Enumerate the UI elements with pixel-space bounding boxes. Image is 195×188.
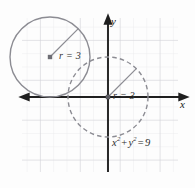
- dashed-circle-radius-label: r = 3: [113, 91, 135, 101]
- coordinate-plane-figure: y x r = 3 r = 3 x2+y2=9: [0, 0, 195, 188]
- solid-circle-radius-label: r = 3: [59, 51, 81, 61]
- circle-equation-label: x2+y2=9: [112, 136, 150, 148]
- dashed-circle-center-dot: [106, 95, 110, 99]
- equation-value: 9: [145, 137, 150, 148]
- grid-layer: [22, 18, 178, 172]
- x-axis-label: x: [180, 99, 185, 110]
- equation-equals: =: [137, 137, 145, 148]
- solid-circle-center-dot: [48, 55, 52, 59]
- y-axis-label: y: [111, 16, 116, 27]
- figure-canvas: [0, 0, 195, 188]
